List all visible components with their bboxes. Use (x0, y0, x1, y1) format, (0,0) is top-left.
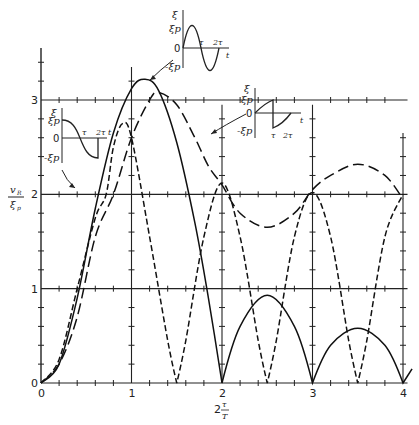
inset-xip-label: ξp (169, 23, 182, 34)
inset2-zero-label: 0 (53, 133, 59, 144)
inset-sawtooth-waveform: ξ ξp 0 -ξp τ 2τ t (237, 83, 304, 140)
y-label-denominator-sub: p (17, 204, 21, 212)
inset3-2tau-label: 2τ (282, 131, 293, 140)
inset-2tau-label: 2τ (212, 38, 223, 47)
arrowhead-icon (69, 183, 75, 188)
inset2-2tau-label: 2τ (95, 128, 106, 137)
x-tick-label: 2 (219, 387, 226, 400)
inset-xi-label: ξ (172, 9, 178, 20)
x-tick-label: 0 (38, 387, 45, 400)
x-axis-label: 2 τ T (214, 400, 229, 421)
x-label-numerator: τ (222, 400, 227, 409)
x-tick-label: 3 (310, 387, 317, 400)
inset-zero-label: 0 (174, 43, 180, 54)
inset3-zero-label: 0 (246, 108, 252, 119)
y-tick-label: 0 (31, 377, 38, 390)
x-tick-label: 4 (400, 387, 407, 400)
inset-sine-waveform: ξ ξp 0 -ξp τ 2τ t (165, 9, 230, 72)
inset3-tau-label: τ (271, 131, 276, 140)
arrowhead-icon (211, 129, 217, 134)
y-label-numerator-sub: R (16, 189, 22, 196)
x-label-prefix: 2 (214, 403, 221, 416)
y-axis-label: v R ξ p (8, 184, 24, 212)
y-label-numerator: v (10, 184, 16, 195)
inset3-t-label: t (300, 116, 304, 125)
inset3-xi-label: ξ (244, 83, 250, 94)
y-tick-label: 3 (31, 94, 38, 107)
inset-tau-label: τ (199, 38, 204, 47)
inset-neg-xip-label: -ξp (165, 61, 181, 72)
grid (41, 48, 408, 383)
y-label-denominator: ξ (10, 199, 16, 210)
x-tick-label: 1 (129, 387, 136, 400)
plot-area: 012340123 v R ξ p 2 τ T ξ ξp 0 -ξp τ 2τ (0, 0, 419, 425)
inset-cosine-waveform: ξ ξp 0 -ξp τ 2τ t (44, 107, 112, 163)
inset-t-label: t (226, 51, 230, 60)
inset3-neg-xip-label: -ξp (237, 125, 253, 136)
y-tick-label: 2 (31, 188, 38, 201)
inset2-neg-xip-label: -ξp (44, 152, 60, 163)
inset2-t-label: t (108, 128, 112, 137)
inset3-xip-label: ξp (241, 94, 254, 105)
inset2-xip-label: ξp (48, 115, 61, 126)
inset2-tau-label: τ (82, 128, 87, 137)
chart: 012340123 v R ξ p 2 τ T ξ ξp 0 -ξp τ 2τ (0, 0, 419, 425)
x-label-denominator: T (222, 412, 228, 421)
y-tick-label: 1 (31, 283, 38, 296)
